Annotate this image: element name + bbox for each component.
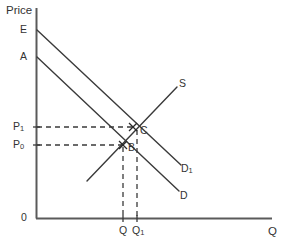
q-tick-label-base: Q (119, 224, 127, 236)
a-intercept-label: A (20, 51, 27, 62)
p1-tick-label-base: P (13, 120, 20, 132)
p0-tick-label-sub: 0 (20, 142, 24, 151)
p1-tick-label-sub: 1 (20, 124, 24, 133)
demand-original-curve (37, 57, 179, 191)
supply-curve-label: S (179, 78, 186, 89)
diagram-canvas (0, 0, 283, 241)
p1-tick-label: P1 (13, 121, 24, 132)
y-axis-title: Price (6, 5, 32, 17)
origin-label: 0 (21, 212, 27, 223)
demand-original-curve-label: D (180, 190, 188, 201)
supply-curve (87, 87, 177, 181)
q1-tick-label-sub: 1 (140, 228, 144, 237)
q1-tick-label-base: Q (132, 224, 140, 236)
supply-demand-diagram: Price Q 0 E A P1 P0 Q Q1 S D1 D C B (0, 0, 283, 241)
point-b-label: B (128, 142, 135, 153)
p0-tick-label: P0 (13, 139, 24, 150)
demand-shifted-label-sub: 1 (189, 166, 193, 175)
demand-shifted-curve-label: D1 (181, 163, 193, 174)
demand-shifted-label-base: D (181, 162, 189, 174)
x-axis-title: Q (268, 226, 277, 238)
q-tick-label: Q (119, 225, 127, 236)
e-intercept-label: E (20, 24, 27, 35)
q1-tick-label: Q1 (132, 225, 144, 236)
point-c-label: C (140, 125, 148, 136)
p0-tick-label-base: P (13, 138, 20, 150)
